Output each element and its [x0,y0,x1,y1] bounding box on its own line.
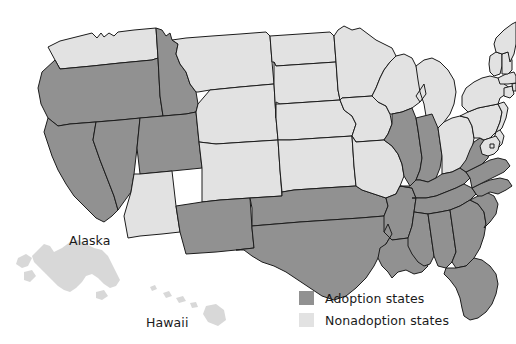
legend-swatch-adoption [299,291,314,305]
state-UT[interactable] [137,112,202,174]
state-FL[interactable] [444,258,498,320]
state-NM[interactable] [176,198,254,254]
state-CO[interactable] [199,140,282,202]
state-KS[interactable] [278,136,356,192]
state-GA[interactable] [450,200,486,268]
us-adoption-map-figure: Alaska Hawaii Adoption states Nonadoptio… [0,0,516,344]
legend-item-nonadoption: Nonadoption states [299,310,449,330]
state-WY[interactable] [196,84,278,144]
state-DC[interactable] [490,144,494,148]
legend-label-adoption: Adoption states [325,291,424,306]
legend-label-nonadoption: Nonadoption states [325,313,449,328]
alaska-inset [16,240,120,300]
state-AK[interactable] [16,240,120,300]
legend-swatch-nonadoption [299,313,314,327]
state-RI[interactable] [512,83,516,91]
state-ND[interactable] [270,32,336,66]
legend-item-adoption: Adoption states [299,288,449,308]
state-VT[interactable] [489,52,502,76]
state-OR[interactable] [38,58,163,126]
state-AZ[interactable] [124,171,180,238]
map-legend: Adoption states Nonadoption states [299,288,449,332]
alaska-label: Alaska [69,233,110,248]
hawaii-label: Hawaii [146,315,189,330]
